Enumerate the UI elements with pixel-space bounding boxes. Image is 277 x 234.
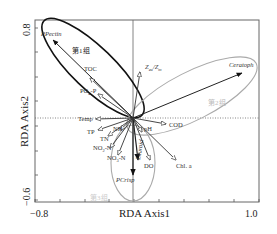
x-tick-min: −0.8 — [30, 208, 48, 219]
label-tp: TP — [87, 128, 95, 135]
x-tick-max: 1.0 — [245, 208, 258, 219]
label-no2: NO2-N — [93, 144, 112, 153]
label-toc: TOC — [84, 65, 97, 72]
y-tick-max: 0.8 — [21, 24, 32, 37]
plot-frame — [35, 20, 259, 202]
label-ceratoph: Ceratoph — [229, 61, 254, 68]
label-do: DO — [144, 162, 154, 169]
label-cod: COD — [169, 121, 183, 128]
label-zeu: Zeu/Zm — [145, 63, 162, 72]
label-pcrisp: PCrisp — [115, 176, 135, 183]
group1-label: 第1组 — [72, 46, 90, 55]
x-axis-title: RDA Axis1 — [119, 207, 170, 219]
y-axis-title: RDA Axis2 — [18, 96, 30, 147]
y-tick-min: −0.6 — [21, 188, 32, 206]
label-tn: TN — [100, 135, 109, 142]
label-chla: Chl. a — [176, 162, 192, 169]
label-ppectin: PPectin — [40, 30, 62, 37]
label-temp: Temp — [78, 115, 93, 122]
rda-biplot: PPectin Ceratoph PCrisp Lkuroid TOC PO4-… — [0, 0, 277, 234]
arrow-po4 — [98, 94, 133, 118]
arrow-zeu — [133, 72, 140, 118]
group3-label: 第3组 — [90, 193, 108, 202]
label-nh4: NH — [113, 125, 123, 132]
label-ph: pH — [144, 125, 152, 132]
arrow-temp — [96, 118, 133, 119]
label-no3: NO3-N — [107, 154, 126, 163]
arrow-no2 — [110, 118, 133, 148]
arrow-ceratoph — [133, 73, 242, 118]
group2-label: 第2组 — [208, 98, 226, 107]
label-po4: PO4-P — [80, 87, 97, 96]
